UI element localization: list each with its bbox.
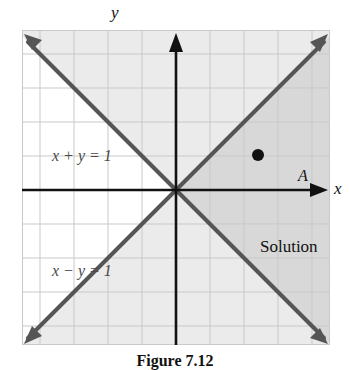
point-a-marker[interactable] xyxy=(252,149,264,161)
plot-area: x + y = 1 x − y = 1 A Solution xyxy=(22,30,330,345)
figure-caption: Figure 7.12 xyxy=(0,352,350,370)
point-a-label: A xyxy=(298,168,308,184)
solution-region-label: Solution xyxy=(260,238,318,255)
y-axis-label: y xyxy=(111,4,119,21)
plot-canvas xyxy=(22,30,330,345)
equation-label-x-plus-y: x + y = 1 xyxy=(52,148,112,164)
x-axis-label: x xyxy=(334,180,342,197)
equation-label-x-minus-y: x − y = 1 xyxy=(52,263,112,279)
